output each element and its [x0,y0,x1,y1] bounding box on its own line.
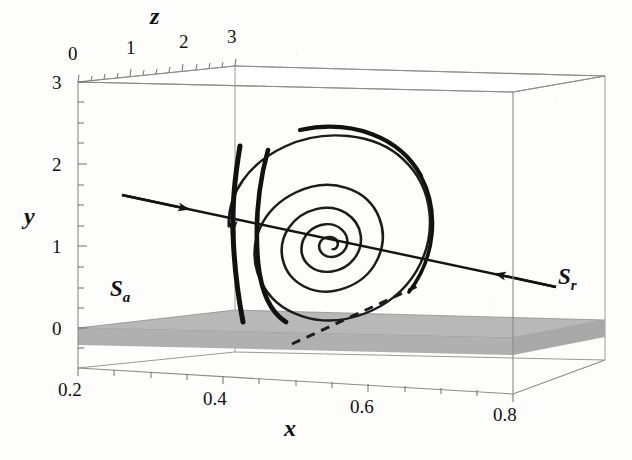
Sr-letter: S [558,264,571,289]
Sr-arrow-left [496,274,556,287]
x-axis-ticks [78,368,513,402]
y-axis-ticks [78,82,87,348]
z-tick-3: 3 [227,26,237,48]
y-tick-2: 2 [52,154,62,176]
z-tick-2: 2 [179,31,189,53]
thick-branch-top-arc [300,127,421,176]
x-axis-title: x [284,415,296,442]
figure-canvas: 3 2 1 0 y 0 1 2 3 z 0.2 0.4 0.6 0.8 x Sa… [0,0,632,460]
x-tick-0: 0.2 [58,379,82,401]
box-edge-bottom-left-back [78,352,235,368]
attracting-sheet-Sa [78,310,605,355]
y-tick-3: 3 [52,72,62,94]
Sr-subscript: r [571,277,577,293]
Sr-arrow-right [122,195,188,209]
Sa-letter: S [110,276,123,301]
z-axis-title: z [150,3,159,30]
Sr-manifold-label: Sr [558,264,577,294]
spiral-path [217,121,444,334]
x-tick-2: 0.6 [350,396,374,418]
z-tick-1: 1 [126,37,136,59]
y-tick-1: 1 [52,236,62,258]
box-edge-bottom-right [513,360,605,394]
phase-portrait-svg [0,0,632,460]
x-tick-3: 0.8 [493,404,517,426]
box-edge-bottom-back [235,352,605,360]
z-tick-0: 0 [68,43,78,65]
spiral-trajectory [217,121,444,334]
Sa-manifold-label: Sa [110,276,130,306]
Sa-subscript: a [123,289,131,305]
x-tick-1: 0.4 [203,388,227,410]
y-axis-title: y [24,203,35,230]
y-tick-0: 0 [52,318,62,340]
